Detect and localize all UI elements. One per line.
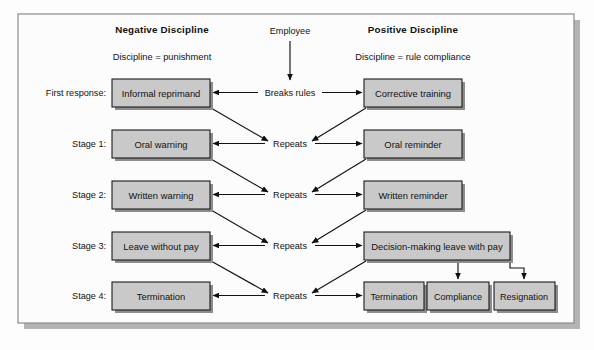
box-compliance[interactable]: Compliance: [427, 282, 492, 313]
box-resignation[interactable]: Resignation: [494, 282, 558, 313]
diagram-frame: [18, 14, 574, 323]
box-label-oral-reminder: Oral reminder: [384, 139, 441, 150]
box-label-decision-making-leave-with-pay: Decision-making leave with pay: [371, 241, 503, 252]
box-label-outcome-resignation: Resignation: [500, 292, 548, 302]
stage-label-stage-1: Stage 1:: [72, 139, 106, 149]
box-label-outcome-termination: Termination: [370, 292, 417, 302]
discipline-flow-diagram: Negative Discipline Discipline = punishm…: [0, 0, 594, 350]
diagram-page: Negative Discipline Discipline = punishm…: [0, 0, 594, 350]
heading-positive-discipline: Positive Discipline: [368, 24, 459, 35]
box-label-outcome-compliance: Compliance: [434, 292, 482, 302]
subtitle-negative-discipline: Discipline = punishment: [113, 52, 212, 62]
box-decision-making-leave-with-pay[interactable]: Decision-making leave with pay: [364, 232, 513, 263]
box-label-corrective-training: Corrective training: [375, 88, 451, 99]
box-leave-without-pay[interactable]: Leave without pay: [112, 232, 213, 263]
stage-label-stage-3: Stage 3:: [72, 241, 106, 251]
box-termination-positive[interactable]: Termination: [364, 282, 427, 313]
stage-label-stage-4: Stage 4:: [72, 291, 106, 301]
entry-label-employee: Employee: [270, 26, 310, 36]
box-corrective-training[interactable]: Corrective training: [364, 79, 465, 110]
box-label-leave-without-pay: Leave without pay: [123, 241, 199, 252]
center-label-repeats-2: Repeats: [273, 190, 307, 200]
stage-label-stage-2: Stage 2:: [72, 190, 106, 200]
box-label-informal-reprimand: Informal reprimand: [122, 88, 201, 99]
subtitle-positive-discipline: Discipline = rule compliance: [355, 52, 471, 62]
box-label-written-warning: Written warning: [129, 190, 194, 201]
box-oral-warning[interactable]: Oral warning: [112, 130, 213, 161]
box-label-termination-negative: Termination: [137, 291, 185, 302]
center-label-repeats-3: Repeats: [273, 241, 307, 251]
box-written-warning[interactable]: Written warning: [112, 181, 213, 212]
box-written-reminder[interactable]: Written reminder: [364, 181, 465, 212]
box-oral-reminder[interactable]: Oral reminder: [364, 130, 465, 161]
box-label-oral-warning: Oral warning: [134, 139, 187, 150]
box-label-written-reminder: Written reminder: [378, 190, 447, 201]
center-label-repeats-1: Repeats: [273, 139, 307, 149]
box-termination-negative[interactable]: Termination: [112, 282, 213, 313]
heading-negative-discipline: Negative Discipline: [115, 24, 209, 35]
stage-label-first-response: First response:: [46, 88, 106, 98]
box-informal-reprimand[interactable]: Informal reprimand: [112, 79, 213, 110]
center-label-breaks-rules: Breaks rules: [265, 88, 316, 98]
center-label-repeats-4: Repeats: [273, 291, 307, 301]
